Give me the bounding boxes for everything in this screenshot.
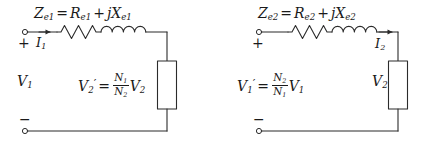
voltage-label-v2-prime-equation: V2′=N1N2V2 [78, 72, 145, 99]
polarity-plus-right-circuit: + [252, 36, 264, 50]
inductor-xe2 [332, 26, 377, 32]
impedance-label-ze2: Ze2=Re2+jXe2 [258, 6, 356, 22]
load-box-right-circuit [389, 61, 408, 109]
load-box-left-circuit [158, 61, 177, 109]
resistor-re2 [288, 26, 332, 39]
current-label-i1: I1 [36, 36, 46, 51]
resistor-re1 [57, 26, 101, 39]
circuit-schematic-svg [0, 0, 426, 153]
terminal-circle-top-right-circuit [256, 29, 261, 34]
current-arrow-i1-head [46, 30, 51, 35]
voltage-label-v1: V1 [17, 74, 33, 90]
terminal-circle-bottom-right-circuit [256, 128, 261, 133]
terminal-circle-top-left [22, 29, 27, 34]
polarity-minus-left-circuit: − [19, 112, 31, 126]
terminal-circle-bottom-left [22, 128, 27, 133]
inductor-xe1 [101, 26, 146, 32]
current-arrow-i2-head [388, 30, 393, 35]
circuit-diagram-canvas: Ze1=Re1+jXe1 I1 V1 V2′=N1N2V2 + − Ze2=Re… [0, 0, 426, 153]
impedance-label-ze1: Ze1=Re1+jXe1 [34, 6, 132, 22]
polarity-minus-right-circuit: − [253, 112, 265, 126]
polarity-plus-left-circuit: + [18, 36, 30, 50]
current-label-i2: I2 [375, 37, 385, 52]
voltage-label-v2: V2 [372, 74, 388, 90]
voltage-label-v1-prime-equation: V1′=N2N1V1 [237, 72, 304, 99]
